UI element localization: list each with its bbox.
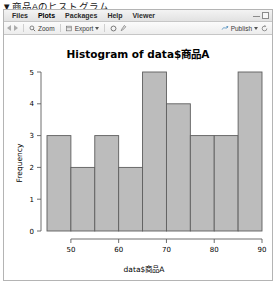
screenshot-root: ▼商品Aのヒストグラム Files Plots Packages Help Vi… [0,0,276,290]
rstudio-plots-pane: Files Plots Packages Help Viewer Zoom [3,9,273,281]
svg-text:0: 0 [30,228,34,236]
histogram-bar [119,167,143,231]
forward-arrow-icon[interactable] [14,25,18,31]
window-controls [253,12,269,19]
clear-all-plots-button[interactable] [120,24,127,32]
export-icon [66,25,73,32]
zoom-button[interactable]: Zoom [29,25,55,32]
svg-text:70: 70 [162,246,171,254]
tab-files[interactable]: Files [7,10,33,21]
histogram-bar [238,72,262,231]
svg-text:3: 3 [30,132,34,140]
maximize-icon[interactable] [262,12,269,19]
toolbar-right-group: Publish [221,25,268,32]
histogram-bar [95,136,119,231]
bar-series [47,72,262,231]
chevron-down-icon[interactable] [95,27,99,30]
remove-plot-icon [110,25,117,32]
x-axis-label: data$商品A [124,264,166,274]
pane-tab-bar: Files Plots Packages Help Viewer [4,10,272,22]
x-axis: 5060708090 [66,239,266,254]
histogram-bar [166,104,190,231]
remove-plot-button[interactable] [110,25,117,32]
toolbar-divider [23,24,24,32]
magnifier-icon [29,25,36,32]
export-button[interactable]: Export [66,25,100,32]
zoom-label: Zoom [38,25,55,32]
svg-text:90: 90 [258,246,267,254]
back-arrow-icon[interactable] [7,25,11,31]
histogram-figure: Histogram of data$商品A Frequency data$商品A… [4,35,272,280]
publish-icon [221,25,229,32]
tab-help[interactable]: Help [102,10,127,21]
plots-toolbar: Zoom Export [4,22,272,35]
chart-title: Histogram of data$商品A [67,48,211,60]
toolbar-divider-2 [60,24,61,32]
histogram-bar [190,136,214,231]
svg-text:5: 5 [30,69,34,77]
svg-text:1: 1 [30,196,34,204]
svg-text:80: 80 [210,246,219,254]
clear-all-plots-icon [120,24,127,32]
publish-button[interactable]: Publish [221,25,258,32]
histogram-bar [143,72,167,231]
plot-canvas: Histogram of data$商品A Frequency data$商品A… [4,35,272,280]
publish-chevron-down-icon[interactable] [254,27,258,30]
histogram-bar [71,167,95,231]
histogram-bar [47,136,71,231]
publish-label: Publish [231,25,252,32]
histogram-bar [214,136,238,231]
y-axis-label: Frequency [15,143,24,182]
refresh-icon[interactable] [261,25,268,32]
svg-text:50: 50 [66,246,75,254]
tab-viewer[interactable]: Viewer [128,10,160,21]
tab-packages[interactable]: Packages [60,10,102,21]
svg-text:60: 60 [114,246,123,254]
y-axis: 012345 [30,69,41,236]
export-label: Export [75,25,94,32]
svg-text:4: 4 [30,100,35,108]
tab-plots[interactable]: Plots [33,10,60,21]
svg-text:2: 2 [30,164,34,172]
minimize-icon[interactable] [253,14,260,17]
toolbar-divider-3 [104,24,105,32]
